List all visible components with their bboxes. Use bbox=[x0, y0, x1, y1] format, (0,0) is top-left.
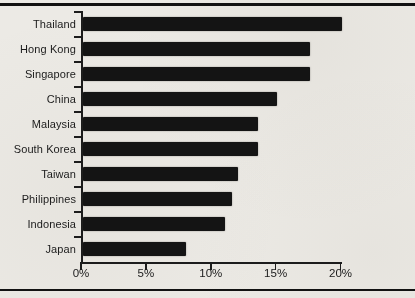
bar-taiwan bbox=[83, 167, 239, 181]
category-label: China bbox=[0, 93, 76, 106]
category-tick bbox=[74, 11, 81, 13]
category-tick bbox=[74, 36, 81, 38]
x-tick-label: 0% bbox=[61, 266, 101, 280]
x-tick-label: 15% bbox=[256, 266, 296, 280]
x-tick-label: 20% bbox=[321, 266, 361, 280]
category-tick bbox=[74, 111, 81, 113]
category-tick bbox=[74, 86, 81, 88]
bar-indonesia bbox=[83, 217, 226, 231]
scanned-chart-page: ThailandHong KongSingaporeChinaMalaysiaS… bbox=[0, 0, 415, 298]
category-tick bbox=[74, 161, 81, 163]
category-label: Hong Kong bbox=[0, 43, 76, 56]
category-tick bbox=[74, 136, 81, 138]
bar-malaysia bbox=[83, 117, 258, 131]
category-tick bbox=[74, 61, 81, 63]
bar-hong-kong bbox=[83, 42, 310, 56]
bar-japan bbox=[83, 242, 187, 256]
x-tick-label: 5% bbox=[126, 266, 166, 280]
bar-chart: ThailandHong KongSingaporeChinaMalaysiaS… bbox=[0, 0, 415, 298]
bar-south-korea bbox=[83, 142, 258, 156]
bar-thailand bbox=[83, 17, 343, 31]
bar-china bbox=[83, 92, 278, 106]
category-label: Philippines bbox=[0, 193, 76, 206]
category-label: Japan bbox=[0, 243, 76, 256]
category-label: Malaysia bbox=[0, 118, 76, 131]
category-tick bbox=[74, 211, 81, 213]
category-tick bbox=[74, 236, 81, 238]
bottom-rule bbox=[0, 289, 415, 291]
category-label: South Korea bbox=[0, 143, 76, 156]
bar-singapore bbox=[83, 67, 310, 81]
category-tick bbox=[74, 186, 81, 188]
x-tick-label: 10% bbox=[191, 266, 231, 280]
category-label: Indonesia bbox=[0, 218, 76, 231]
category-label: Thailand bbox=[0, 18, 76, 31]
bar-philippines bbox=[83, 192, 232, 206]
category-label: Singapore bbox=[0, 68, 76, 81]
category-label: Taiwan bbox=[0, 168, 76, 181]
